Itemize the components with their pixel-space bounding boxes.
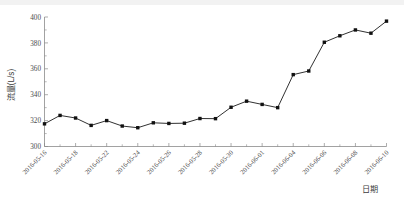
chart-svg: 2016-05-162016-05-182016-05-222016-05-24… [0, 0, 404, 211]
data-point-marker [229, 106, 232, 109]
y-tick-labels: 300320340360380400 [30, 14, 41, 152]
x-tick-label: 2016-05-16 [21, 148, 48, 175]
y-axis [45, 17, 49, 147]
y-tick-label: 300 [30, 143, 41, 151]
line-chart: 2016-05-162016-05-182016-05-222016-05-24… [0, 0, 404, 211]
y-axis-title: 流量(L/s) [6, 69, 16, 102]
data-point-marker [214, 117, 217, 120]
y-tick-label: 360 [30, 65, 41, 73]
data-point-marker [245, 99, 248, 102]
data-point-marker [43, 122, 46, 125]
data-point-marker [323, 41, 326, 44]
series-line [45, 21, 387, 128]
y-tick-label: 320 [30, 117, 41, 125]
x-tick-label: 2016-06-01 [239, 149, 266, 176]
data-point-marker [74, 116, 77, 119]
data-point-marker [292, 73, 295, 76]
data-point-marker [136, 126, 139, 129]
data-point-marker [198, 117, 201, 120]
x-tick-label: 2016-05-30 [208, 148, 235, 175]
data-point-marker [369, 31, 372, 34]
data-series [43, 19, 388, 129]
data-point-marker [354, 28, 357, 31]
data-point-marker [89, 124, 92, 127]
x-tick-label: 2016-05-18 [52, 148, 79, 175]
y-tick-label: 380 [30, 40, 41, 48]
x-axis-title: 日期 [362, 185, 378, 194]
data-point-marker [338, 34, 341, 37]
data-point-marker [121, 124, 124, 127]
figure-caption [0, 204, 404, 211]
x-tick-label: 2016-06-10 [363, 148, 390, 175]
x-axis [45, 143, 387, 147]
figure-container: 2016-05-162016-05-182016-05-222016-05-24… [0, 0, 404, 211]
data-point-marker [167, 122, 170, 125]
data-point-marker [105, 119, 108, 122]
x-tick-label: 2016-06-08 [332, 148, 359, 175]
data-point-marker [260, 103, 263, 106]
x-tick-label: 2016-05-26 [145, 148, 172, 175]
x-tick-label: 2016-06-06 [301, 148, 328, 175]
x-tick-label: 2016-05-22 [83, 149, 110, 176]
data-point-marker [276, 106, 279, 109]
data-point-marker [307, 69, 310, 72]
y-tick-label: 400 [30, 14, 41, 22]
data-point-marker [183, 121, 186, 124]
y-tick-label: 340 [30, 91, 41, 99]
data-point-marker [58, 114, 61, 117]
data-point-marker [385, 19, 388, 22]
data-point-marker [152, 121, 155, 124]
x-tick-labels: 2016-05-162016-05-182016-05-222016-05-24… [21, 148, 390, 175]
x-tick-label: 2016-06-04 [270, 148, 297, 175]
x-tick-label: 2016-05-24 [114, 148, 141, 175]
x-tick-label: 2016-05-28 [176, 148, 203, 175]
